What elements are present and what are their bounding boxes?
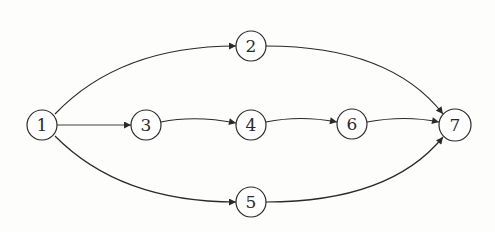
node-label: 4 (246, 115, 257, 135)
node-label: 6 (347, 114, 358, 134)
edge-1-2 (55, 46, 236, 114)
node-label: 7 (450, 115, 461, 135)
node-3: 3 (131, 110, 161, 140)
node-7: 7 (439, 109, 471, 141)
node-label: 3 (141, 115, 152, 135)
node-label: 5 (246, 192, 257, 212)
node-label: 2 (246, 36, 257, 56)
network-diagram: 1 2 3 4 5 6 7 (0, 0, 495, 232)
edge-3-4 (161, 119, 236, 123)
node-label: 1 (37, 115, 48, 135)
node-5: 5 (236, 187, 266, 217)
edge-4-6 (266, 119, 337, 123)
edge-6-7 (367, 119, 439, 123)
node-6: 6 (337, 109, 367, 139)
node-2: 2 (236, 31, 266, 61)
edge-1-5 (55, 136, 236, 202)
edge-2-7 (266, 46, 443, 114)
edge-5-7 (266, 137, 443, 202)
graph-canvas: 1 2 3 4 5 6 7 (0, 0, 495, 232)
node-1: 1 (27, 110, 57, 140)
node-4: 4 (236, 110, 266, 140)
